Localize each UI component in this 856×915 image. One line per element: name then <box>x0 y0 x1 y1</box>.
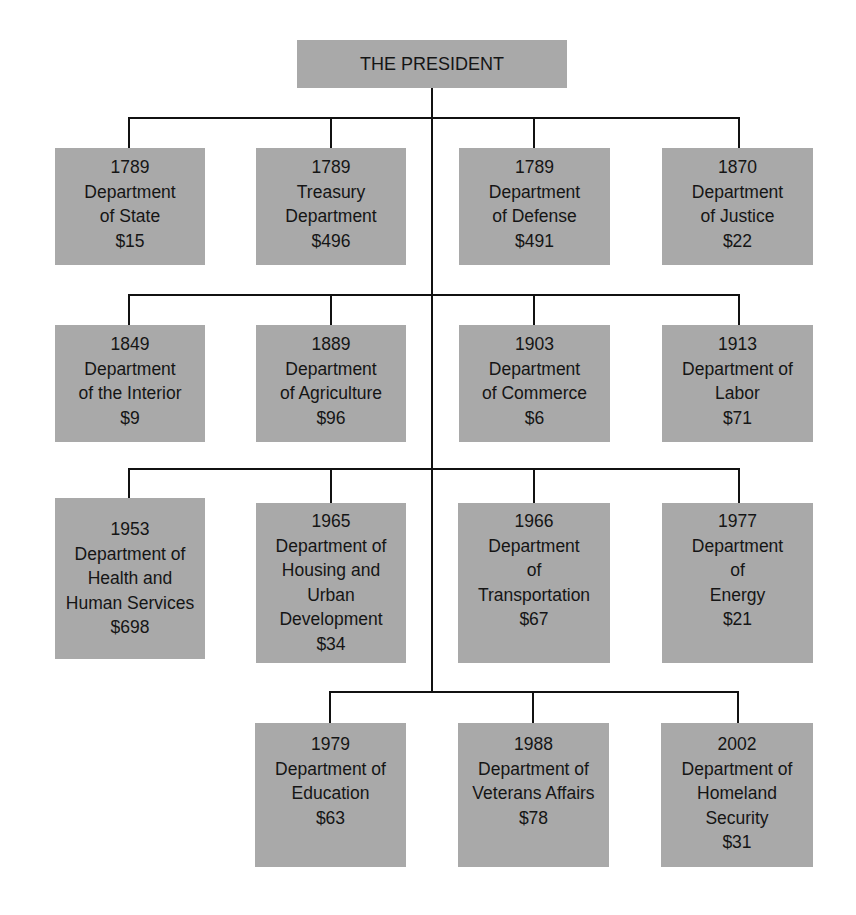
row1-drop-3 <box>533 117 535 148</box>
dept-year: 1953 <box>111 517 150 542</box>
dept-name-line: Department of <box>276 534 387 559</box>
row3-drop-3 <box>533 468 535 503</box>
dept-name-line: Education <box>292 781 370 806</box>
dept-year: 1966 <box>515 509 554 534</box>
main-spine-line <box>431 88 433 693</box>
dept-box-homeland-security: 2002 Department of Homeland Security $31 <box>661 723 813 867</box>
dept-name-line: Department <box>84 180 175 205</box>
row4-drop-1 <box>329 691 331 723</box>
dept-name-line: Health and <box>88 566 173 591</box>
dept-year: 1988 <box>514 732 553 757</box>
dept-box-veterans-affairs: 1988 Department of Veterans Affairs $78 <box>458 723 609 867</box>
dept-box-defense: 1789 Department of Defense $491 <box>459 148 610 265</box>
dept-year: 1789 <box>312 155 351 180</box>
dept-amount: $78 <box>519 806 548 831</box>
row4-drop-3 <box>737 691 739 723</box>
dept-name-line: Development <box>279 607 382 632</box>
dept-name-line: of Justice <box>701 204 775 229</box>
president-label: THE PRESIDENT <box>360 54 504 75</box>
dept-name-line: Transportation <box>478 583 590 608</box>
president-box: THE PRESIDENT <box>297 40 567 88</box>
dept-name-line: Department <box>285 357 376 382</box>
dept-box-commerce: 1903 Department of Commerce $6 <box>459 325 610 442</box>
row1-drop-2 <box>330 117 332 148</box>
dept-amount: $21 <box>723 607 752 632</box>
dept-amount: $6 <box>525 406 544 431</box>
dept-amount: $34 <box>316 632 345 657</box>
dept-year: 1870 <box>718 155 757 180</box>
dept-amount: $9 <box>120 406 139 431</box>
dept-year: 1789 <box>515 155 554 180</box>
row3-drop-2 <box>330 468 332 503</box>
row3-drop-1 <box>128 468 130 499</box>
dept-year: 1979 <box>311 732 350 757</box>
dept-box-education: 1979 Department of Education $63 <box>255 723 406 867</box>
dept-box-interior: 1849 Department of the Interior $9 <box>55 325 205 442</box>
dept-amount: $31 <box>722 830 751 855</box>
dept-name-line: Department <box>488 534 579 559</box>
dept-name-line: Energy <box>710 583 765 608</box>
dept-year: 1965 <box>312 509 351 534</box>
dept-name-line: Department <box>692 534 783 559</box>
dept-name-line: Department <box>692 180 783 205</box>
dept-year: 1913 <box>718 332 757 357</box>
dept-amount: $67 <box>519 607 548 632</box>
row1-drop-4 <box>738 117 740 148</box>
dept-box-housing-urban-development: 1965 Department of Housing and Urban Dev… <box>256 503 406 663</box>
dept-amount: $22 <box>723 229 752 254</box>
row2-drop-1 <box>128 294 130 325</box>
dept-name-line: Department of <box>682 757 793 782</box>
dept-box-treasury: 1789 Treasury Department $496 <box>256 148 406 265</box>
row1-connector <box>128 117 740 119</box>
dept-year: 1903 <box>515 332 554 357</box>
dept-name-line: of Commerce <box>482 381 587 406</box>
dept-year: 1849 <box>111 332 150 357</box>
dept-box-state: 1789 Department of State $15 <box>55 148 205 265</box>
dept-amount: $15 <box>115 229 144 254</box>
dept-amount: $96 <box>316 406 345 431</box>
dept-name-line: Treasury <box>297 180 365 205</box>
row2-drop-2 <box>330 294 332 325</box>
dept-name-line: Labor <box>715 381 760 406</box>
dept-name-line: Department of <box>682 357 793 382</box>
dept-name-line: Security <box>705 806 768 831</box>
dept-name-line: Human Services <box>66 591 194 616</box>
dept-name-line: Department of <box>275 757 386 782</box>
row2-connector <box>128 294 740 296</box>
dept-box-justice: 1870 Department of Justice $22 <box>662 148 813 265</box>
dept-year: 2002 <box>718 732 757 757</box>
dept-name-line: Department <box>489 180 580 205</box>
row4-connector <box>329 691 739 693</box>
dept-box-agriculture: 1889 Department of Agriculture $96 <box>256 325 406 442</box>
dept-name-line: Veterans Affairs <box>472 781 594 806</box>
row2-drop-4 <box>738 294 740 325</box>
dept-name-line: Department <box>285 204 376 229</box>
dept-name-line: Department <box>84 357 175 382</box>
dept-box-health-human-services: 1953 Department of Health and Human Serv… <box>55 498 205 659</box>
dept-amount: $496 <box>312 229 351 254</box>
dept-name-line: of State <box>100 204 160 229</box>
dept-name-line: of <box>730 558 745 583</box>
dept-name-line: Department of <box>75 542 186 567</box>
dept-year: 1977 <box>718 509 757 534</box>
row3-drop-4 <box>738 468 740 503</box>
dept-year: 1789 <box>111 155 150 180</box>
dept-amount: $63 <box>316 806 345 831</box>
dept-name-line: of the Interior <box>78 381 181 406</box>
dept-name-line: Urban <box>307 583 355 608</box>
row1-drop-1 <box>128 117 130 148</box>
row3-connector <box>128 468 740 470</box>
dept-name-line: Department <box>489 357 580 382</box>
dept-name-line: of Agriculture <box>280 381 382 406</box>
row2-drop-3 <box>533 294 535 325</box>
row4-drop-2 <box>532 691 534 723</box>
dept-name-line: of <box>527 558 542 583</box>
dept-name-line: Housing and <box>282 558 380 583</box>
dept-box-energy: 1977 Department of Energy $21 <box>662 503 813 663</box>
dept-amount: $71 <box>723 406 752 431</box>
dept-name-line: Homeland <box>697 781 777 806</box>
dept-name-line: Department of <box>478 757 589 782</box>
dept-year: 1889 <box>312 332 351 357</box>
dept-name-line: of Defense <box>492 204 577 229</box>
dept-box-labor: 1913 Department of Labor $71 <box>662 325 813 442</box>
